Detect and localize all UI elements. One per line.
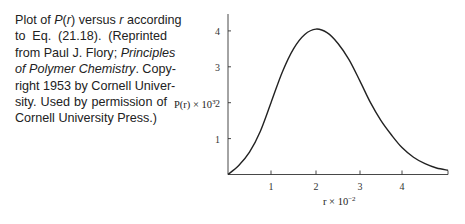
x-ticks: 1234 xyxy=(269,171,405,192)
y-tick-label: 2 xyxy=(215,98,220,109)
chart: 1234 1234 P(r) × 103 r × 10−2 xyxy=(0,0,465,224)
x-tick-label: 3 xyxy=(358,181,363,192)
x-axis-label: r × 10−2 xyxy=(323,195,356,207)
x-tick-label: 2 xyxy=(314,181,319,192)
x-tick-label: 1 xyxy=(269,181,274,192)
x-tick-label: 4 xyxy=(400,181,405,192)
y-tick-label: 3 xyxy=(215,62,220,73)
y-tick-label: 1 xyxy=(215,134,220,145)
y-axis-label: P(r) × 103 xyxy=(174,98,216,111)
curve-p-of-r xyxy=(228,29,448,174)
y-tick-label: 4 xyxy=(215,26,220,37)
y-ticks: 1234 xyxy=(215,26,231,145)
axes xyxy=(228,14,448,175)
